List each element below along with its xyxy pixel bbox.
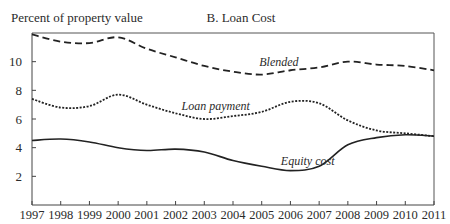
series-line-blended [32,34,434,74]
plot-frame [32,33,434,205]
series-label-blended: Blended [259,55,299,69]
x-tick-label: 2002 [163,208,188,222]
line-chart: Percent of property value B. Loan Cost 2… [0,0,450,224]
x-axis-ticks: 1997199819992000200120022003200420052006… [20,201,447,222]
x-tick-label: 1999 [77,208,102,222]
x-tick-label: 2001 [134,208,159,222]
x-tick-label: 2006 [278,208,303,222]
x-tick-label: 2000 [106,208,131,222]
x-tick-label: 2003 [192,208,217,222]
y-tick-label: 4 [16,140,23,155]
y-tick-label: 2 [16,169,23,184]
x-tick-label: 1997 [20,208,45,222]
chart-title: B. Loan Cost [207,10,276,25]
x-tick-label: 2005 [249,208,274,222]
x-tick-label: 2007 [307,208,332,222]
y-tick-label: 8 [16,83,23,98]
y-axis-label: Percent of property value [11,10,143,25]
x-tick-label: 2011 [422,208,447,222]
x-tick-label: 1998 [48,208,73,222]
series-label-loan-payment: Loan payment [181,99,251,113]
x-tick-label: 2004 [221,208,247,222]
y-tick-label: 10 [9,54,22,69]
x-tick-label: 2010 [393,208,418,222]
series-line-equity-cost [32,135,434,171]
y-tick-label: 6 [16,112,23,127]
series-labels: BlendedLoan paymentEquity cost [181,55,336,168]
series-label-equity-cost: Equity cost [280,154,335,168]
x-tick-label: 2008 [335,208,360,222]
x-tick-label: 2009 [364,208,389,222]
